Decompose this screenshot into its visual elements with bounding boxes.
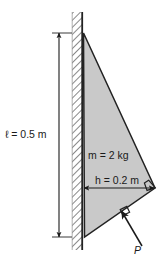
vertical-wall [72, 12, 82, 250]
wall-hatching [72, 12, 82, 250]
length-dimension-label: ℓ = 0.5 m [5, 128, 47, 140]
height-dimension-label: h = 0.2 m [95, 174, 139, 186]
force-label-P: P [134, 244, 141, 256]
mass-label: m = 2 kg [88, 149, 129, 161]
figure-container: ℓ = 0.5 m m = 2 kg h = 0.2 m P [0, 0, 168, 270]
statics-diagram: ℓ = 0.5 m m = 2 kg h = 0.2 m P [0, 0, 168, 270]
